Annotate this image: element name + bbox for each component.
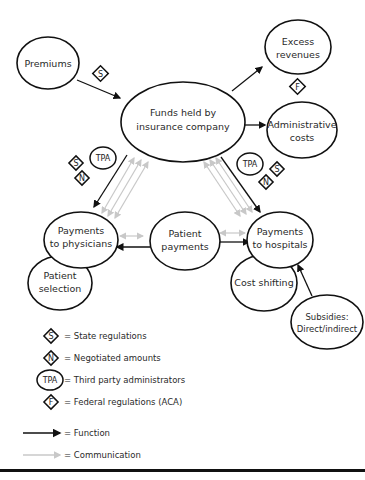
legend-state-text: = State regulations [64,331,147,341]
arrow-subsidies-to-hospitals [298,265,312,296]
node-subsidies: Subsidies: Direct/indirect [291,295,363,349]
badge-state-right: S [270,162,284,176]
node-premiums-label: Premiums [24,58,71,69]
legend-federal-text: = Federal regulations (ACA) [64,397,182,407]
badge-state-label: S [73,159,78,168]
node-cost-shifting-label: Cost shifting [234,277,293,288]
node-excess-revenues: Excess revenues [265,20,331,74]
diagram-canvas: Premiums Funds held by insurance company… [0,0,365,480]
node-selection-label-1: Patient [43,270,76,281]
node-hospitals-label-2: to hospitals [252,239,307,250]
node-payments-hospitals: Payments to hospitals [247,212,313,268]
badge-federal: F [290,79,306,95]
legend: S = State regulations N = Negotiated amo… [23,329,186,460]
badge-federal-label: F [295,83,300,92]
node-admin-label-1: Administrative [267,119,336,130]
legend-state: S = State regulations [44,329,147,343]
node-premiums: Premiums [17,37,79,89]
arrow-premiums-to-funds [77,80,120,98]
badge-tpa-right: TPA [237,153,263,175]
legend-tpa: TPA = Third party administrators [37,370,186,390]
node-hospitals-label-1: Payments [257,226,304,237]
node-subsidies-label-1: Subsidies: [305,312,348,322]
node-excess-label-2: revenues [276,49,320,60]
badge-tpa-label: TPA [242,160,258,169]
legend-tpa-text: = Third party administrators [64,375,186,385]
legend-function-text: = Function [64,428,110,438]
badge-state-label: S [98,70,103,79]
node-subsidies-label-2: Direct/indirect [297,324,358,334]
legend-federal-icon-label: F [49,398,54,407]
node-physicians-label-2: to physicians [50,238,113,249]
node-patient-payments-label-1: Patient [168,228,201,239]
badge-state-label: S [274,165,279,174]
node-patient-payments: Patient payments [150,212,220,270]
badge-negotiated-left: N [75,171,89,185]
legend-negotiated: N = Negotiated amounts [44,351,161,365]
node-administrative-costs: Administrative costs [267,102,337,158]
node-funds-held: Funds held by insurance company [121,82,245,162]
node-selection-label-2: selection [39,283,82,294]
legend-function: = Function [23,428,110,438]
node-physicians-label-1: Payments [58,225,105,236]
node-patient-payments-label-2: payments [161,241,208,252]
badge-negotiated-right: N [259,175,273,189]
badge-negotiated-label: N [79,174,85,183]
badge-state-premiums: S [93,66,109,82]
legend-state-icon-label: S [48,332,53,341]
node-funds-label-1: Funds held by [150,107,217,118]
legend-communication-text: = Communication [64,450,141,460]
legend-federal: F = Federal regulations (ACA) [44,395,182,409]
comm-funds-physicians-3 [115,162,148,218]
badge-negotiated-label: N [263,178,269,187]
bottom-divider [0,469,365,472]
node-funds-label-2: insurance company [136,121,230,132]
legend-tpa-icon-label: TPA [42,376,58,385]
comm-funds-hospitals-1 [204,162,240,216]
legend-negotiated-text: = Negotiated amounts [64,353,161,363]
legend-negotiated-icon-label: N [48,354,54,363]
badge-tpa-label: TPA [95,154,111,163]
legend-communication: = Communication [23,450,141,460]
comm-funds-physicians-2 [108,160,141,216]
badge-state-left: S [69,156,83,170]
node-admin-label-2: costs [290,132,315,143]
node-payments-physicians: Payments to physicians [44,212,118,268]
node-excess-label-1: Excess [282,36,314,47]
badge-tpa-left: TPA [90,147,116,169]
arrow-funds-to-excess [232,67,262,91]
